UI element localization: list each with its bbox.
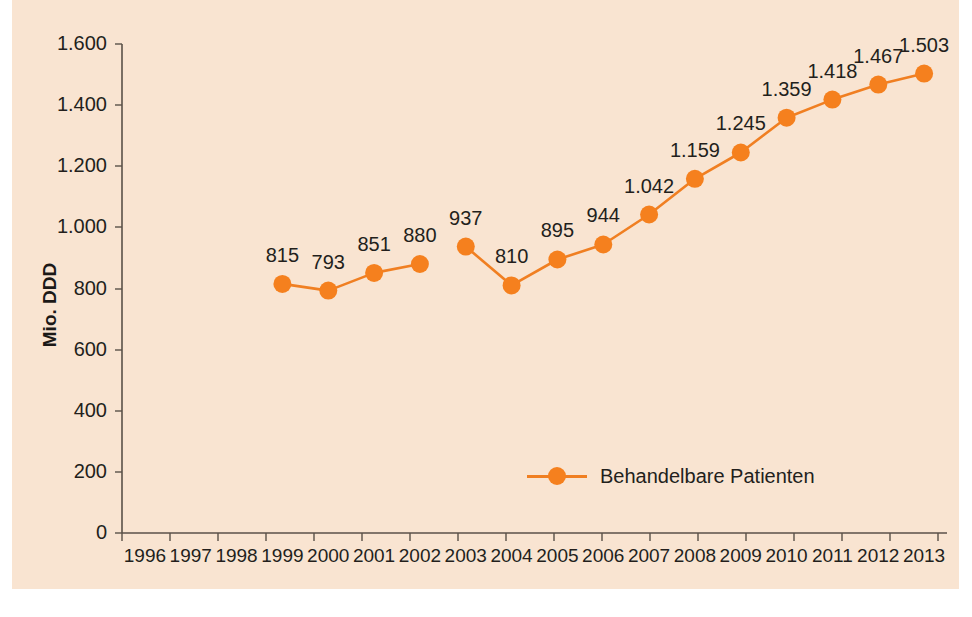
y-tick-label-1000: 1.000 — [32, 215, 107, 238]
data-point-2009 — [732, 144, 750, 162]
data-label-2004: 810 — [475, 245, 549, 268]
chart-panel: 1.600 1.400 1.200 1.000 800 600 400 200 … — [12, 0, 959, 589]
y-axis-title: Mio. DDD — [39, 250, 61, 360]
x-axis-ticks — [122, 533, 938, 541]
x-tick-label-2000: 2000 — [305, 545, 351, 567]
x-tick-label-2006: 2006 — [580, 545, 626, 567]
y-tick-label-1400: 1.400 — [32, 93, 107, 116]
data-point-2008 — [686, 170, 704, 188]
data-label-2003: 937 — [429, 207, 503, 230]
y-axis-ticks — [115, 44, 122, 533]
data-point-2005 — [548, 251, 566, 269]
y-tick-label-400: 400 — [32, 399, 107, 422]
data-label-2008: 1.159 — [658, 139, 732, 162]
legend-marker-icon — [527, 467, 587, 485]
data-point-2002 — [411, 255, 429, 273]
x-tick-label-2010: 2010 — [764, 545, 810, 567]
data-point-2007 — [640, 206, 658, 224]
x-tick-label-2003: 2003 — [443, 545, 489, 567]
x-tick-label-2012: 2012 — [855, 545, 901, 567]
data-point-2001 — [365, 264, 383, 282]
data-point-2011 — [823, 91, 841, 109]
data-point-2013 — [915, 65, 933, 83]
x-tick-label-2007: 2007 — [626, 545, 672, 567]
data-point-1999 — [273, 275, 291, 293]
x-tick-label-1999: 1999 — [260, 545, 306, 567]
y-tick-label-1600: 1.600 — [32, 32, 107, 55]
legend-label: Behandelbare Patienten — [600, 465, 815, 488]
x-tick-label-2011: 2011 — [810, 545, 856, 567]
data-point-2000 — [319, 282, 337, 300]
data-label-2013: 1.503 — [887, 34, 961, 57]
chart-legend: Behandelbare Patienten — [527, 462, 815, 490]
x-tick-label-1996: 1996 — [122, 545, 168, 567]
data-label-2007: 1.042 — [612, 175, 686, 198]
x-tick-label-2004: 2004 — [489, 545, 535, 567]
y-tick-label-200: 200 — [32, 460, 107, 483]
y-tick-label-0: 0 — [32, 521, 107, 544]
x-tick-label-2009: 2009 — [718, 545, 764, 567]
data-label-2006: 944 — [566, 204, 640, 227]
x-tick-label-1997: 1997 — [168, 545, 214, 567]
data-point-2012 — [869, 76, 887, 94]
data-point-2003 — [457, 238, 475, 256]
data-label-2009: 1.245 — [704, 112, 778, 135]
x-tick-label-1998: 1998 — [214, 545, 260, 567]
x-tick-label-2005: 2005 — [535, 545, 581, 567]
x-tick-label-2013: 2013 — [901, 545, 947, 567]
series-markers — [273, 65, 933, 300]
y-tick-label-1200: 1.200 — [32, 154, 107, 177]
data-point-2004 — [503, 276, 521, 294]
x-tick-label-2001: 2001 — [351, 545, 397, 567]
data-point-2006 — [594, 236, 612, 254]
x-tick-label-2008: 2008 — [672, 545, 718, 567]
chart-screenshot: 1.600 1.400 1.200 1.000 800 600 400 200 … — [0, 0, 972, 617]
x-tick-label-2002: 2002 — [397, 545, 443, 567]
data-point-2010 — [778, 109, 796, 127]
